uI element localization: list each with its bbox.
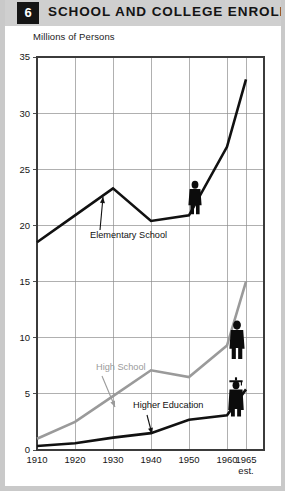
- x-tick-label: 1920: [64, 454, 85, 465]
- page-title: SCHOOL AND COLLEGE ENROLLMENT: [48, 4, 279, 19]
- chart-header: 6 SCHOOL AND COLLEGE ENROLLMENT: [5, 0, 281, 26]
- chart-number-badge: 6: [17, 2, 39, 24]
- x-tick-label: 1940: [140, 454, 161, 465]
- annotation-label-elementary-school: Elementary School: [90, 230, 167, 240]
- x-tick-label: 1930: [102, 454, 123, 465]
- y-tick-label: 10: [19, 332, 30, 343]
- x-tick-label: 1965: [235, 454, 256, 465]
- y-tick-label: 25: [19, 164, 30, 175]
- y-tick-label: 30: [19, 108, 30, 119]
- x-tick-label: 1950: [178, 454, 199, 465]
- y-axis: 05101520253035: [19, 51, 37, 455]
- y-tick-label: 5: [25, 388, 30, 399]
- x-axis: 1910192019301940195019601965est.: [26, 454, 256, 476]
- chart-page: 6 SCHOOL AND COLLEGE ENROLLMENT Millions…: [0, 0, 285, 491]
- annotation-label-higher-education: Higher Education: [133, 400, 203, 410]
- y-tick-label: 20: [19, 220, 30, 231]
- x-tick-sublabel: est.: [238, 465, 253, 476]
- y-tick-label: 35: [19, 51, 30, 62]
- x-tick-label: 1960: [216, 454, 237, 465]
- y-tick-label: 15: [19, 276, 30, 287]
- line-chart: 05101520253035 1910192019301940195019601…: [5, 26, 281, 486]
- annotation-label-high-school: High School: [96, 362, 146, 372]
- x-tick-label: 1910: [26, 454, 47, 465]
